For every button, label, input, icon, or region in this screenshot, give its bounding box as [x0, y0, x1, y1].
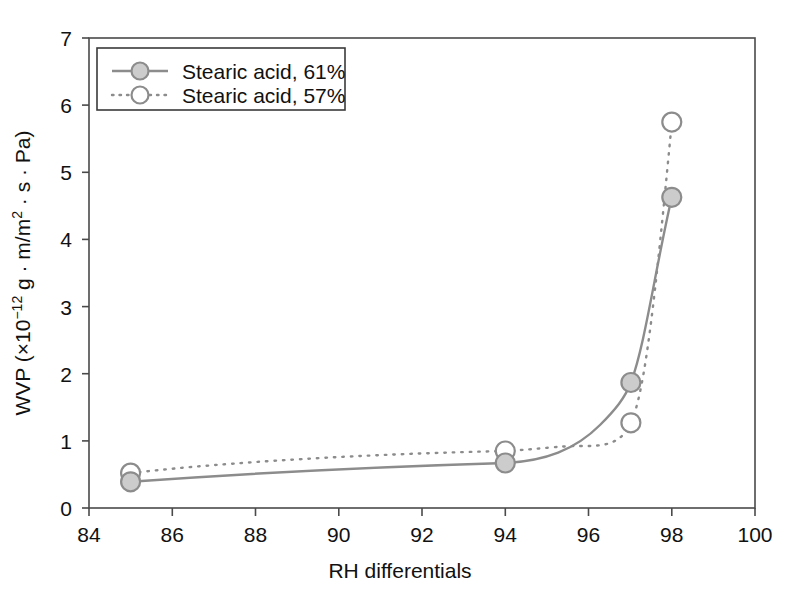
y-axis-title: WVP (×10−12 g · m/m2 · s · Pa) [9, 131, 34, 416]
data-point [496, 454, 515, 473]
x-tick-label: 96 [577, 523, 600, 546]
data-point [621, 373, 640, 392]
x-tick-label: 92 [410, 523, 433, 546]
data-point [121, 472, 140, 491]
data-point [621, 413, 640, 432]
chart-figure: 0 1 2 3 4 5 6 7 84 86 88 90 92 94 96 98 … [0, 0, 789, 594]
x-tick-label: 98 [660, 523, 683, 546]
y-axis-title-exponent2: 2 [9, 211, 25, 219]
chart-canvas: 0 1 2 3 4 5 6 7 84 86 88 90 92 94 96 98 … [0, 0, 789, 594]
svg-text:WVP (×10−12 g · m/m2 · s · Pa): WVP (×10−12 g · m/m2 · s · Pa) [9, 131, 34, 416]
legend-swatch-marker-61 [132, 63, 149, 80]
x-tick-labels: 84 86 88 90 92 94 96 98 100 [77, 523, 772, 546]
y-axis-title-mid: g · m/m [11, 219, 34, 296]
y-tick-label: 0 [60, 497, 72, 520]
y-axis-title-prefix: WVP (×10 [11, 320, 34, 416]
y-tick-label: 5 [60, 161, 72, 184]
legend-swatch-marker-57 [132, 87, 149, 104]
data-point [662, 113, 681, 132]
y-tick-label: 4 [60, 228, 72, 251]
legend-label-stearic-acid-57: Stearic acid, 57% [182, 84, 345, 107]
x-tick-label: 100 [737, 523, 772, 546]
x-tick-label: 90 [327, 523, 350, 546]
legend-label-stearic-acid-61: Stearic acid, 61% [182, 60, 345, 83]
x-tick-label: 86 [161, 523, 184, 546]
y-axis-title-suffix: · s · Pa) [11, 131, 34, 212]
y-axis-title-exponent: −12 [9, 296, 25, 320]
y-tick-label: 6 [60, 94, 72, 117]
x-tick-label: 88 [244, 523, 267, 546]
y-tick-label: 7 [60, 27, 72, 50]
y-tick-label: 2 [60, 363, 72, 386]
x-tick-label: 84 [77, 523, 101, 546]
y-tick-label: 3 [60, 296, 72, 319]
x-axis-title: RH differentials [328, 559, 471, 582]
chart-legend: Stearic acid, 61% Stearic acid, 57% [97, 48, 345, 110]
y-tick-label: 1 [60, 430, 72, 453]
data-point [662, 188, 681, 207]
x-tick-label: 94 [494, 523, 518, 546]
